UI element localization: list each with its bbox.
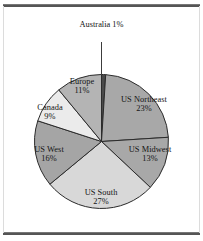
slice-label-canada-name: Canada (37, 103, 62, 112)
slice-label-us-south: US South 27% (70, 188, 132, 206)
slice-label-canada-value: 9% (21, 112, 79, 121)
slice-label-us-west-value: 16% (19, 154, 79, 163)
slice-label-canada: Canada 9% (21, 103, 79, 121)
slice-label-us-west: US West 16% (19, 145, 79, 163)
slice-label-us-northeast-value: 23% (107, 104, 181, 113)
slice-callout-australia: Australia 1% (63, 20, 140, 29)
slice-callout-australia-name: Australia (80, 20, 111, 29)
slice-label-us-northeast-name: US Northeast (121, 95, 167, 104)
slice-label-us-northeast: US Northeast 23% (107, 95, 181, 113)
slice-label-us-midwest-value: 13% (115, 154, 185, 163)
slice-label-europe-value: 11% (55, 86, 109, 95)
pie-chart: Australia 1% US Northeast 23% US Midwest… (0, 0, 203, 241)
slice-label-us-midwest-name: US Midwest (129, 145, 172, 154)
slice-label-us-midwest: US Midwest 13% (115, 145, 185, 163)
figure-container: Australia 1% US Northeast 23% US Midwest… (0, 0, 203, 241)
slice-label-us-south-value: 27% (70, 197, 132, 206)
slice-label-us-west-name: US West (34, 145, 64, 154)
slice-label-europe: Europe 11% (55, 77, 109, 95)
slice-label-europe-name: Europe (70, 77, 94, 86)
slice-callout-australia-value: 1% (112, 20, 123, 29)
slice-label-us-south-name: US South (85, 188, 118, 197)
